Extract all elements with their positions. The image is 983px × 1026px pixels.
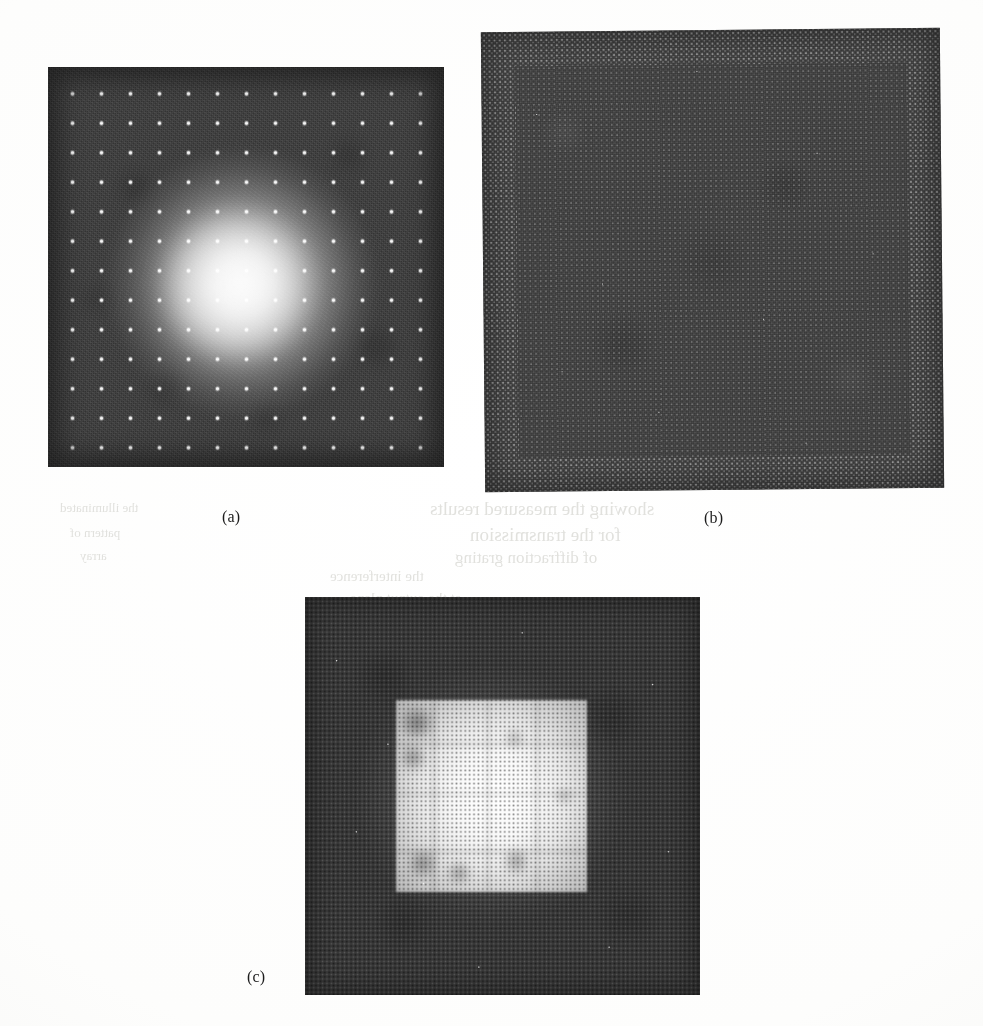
figure-panel-a	[48, 67, 444, 467]
figure-panel-c	[305, 597, 700, 995]
page-canvas: showing the measured results for the tra…	[0, 0, 983, 1026]
figure-label-c: (c)	[247, 968, 265, 986]
figure-label-a: (a)	[222, 508, 240, 526]
figure-panel-b	[481, 28, 944, 492]
bleed-text-line: showing the measured results	[430, 498, 654, 520]
panel-c-edge-vignette	[305, 597, 700, 995]
bleed-text-line: array	[80, 548, 107, 564]
bleed-text-line: the interference	[330, 568, 424, 585]
panel-b-edge-vignette	[481, 28, 944, 492]
bleed-text-line: for the transmission	[470, 524, 621, 546]
bleed-text-line: the illuminated	[60, 500, 138, 516]
bleed-text-line: of diffraction grating	[455, 548, 597, 568]
panel-a-edge-vignette	[48, 67, 444, 467]
bleed-text-line: pattern of	[70, 525, 120, 541]
figure-label-b: (b)	[704, 509, 723, 527]
